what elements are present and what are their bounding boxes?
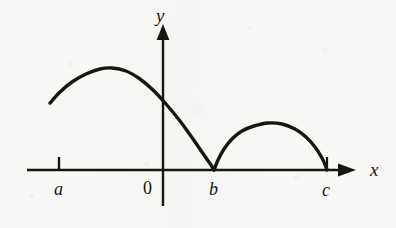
tick-label-a: a <box>54 180 63 198</box>
y-axis-label: y <box>156 6 164 25</box>
curve-arch-2 <box>214 123 327 170</box>
curve-arch-1 <box>50 68 214 170</box>
figure-canvas: y x a 0 b c <box>0 0 396 228</box>
tick-group <box>59 157 327 170</box>
y-axis-arrow-icon <box>157 24 170 40</box>
tick-label-b: b <box>209 180 218 198</box>
curve-group <box>50 68 327 170</box>
axis-group <box>27 24 356 206</box>
x-axis-arrow-icon <box>338 164 356 177</box>
origin-label: 0 <box>143 179 152 197</box>
tick-label-c: c <box>322 181 330 199</box>
x-axis-label: x <box>370 160 378 179</box>
